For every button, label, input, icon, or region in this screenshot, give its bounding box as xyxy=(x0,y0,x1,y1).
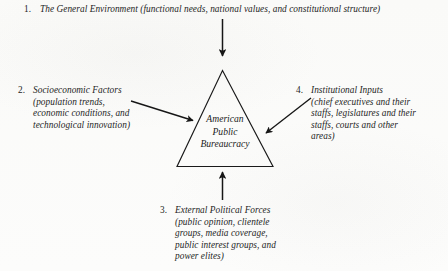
item-3-number: 3. xyxy=(160,205,167,217)
item-4-number: 4. xyxy=(296,85,303,97)
diagram-canvas: American Public Bureaucracy 1. The Gener… xyxy=(0,0,448,271)
item-2-label: Socioeconomic Factors (population trends… xyxy=(33,85,145,131)
center-label-line-3: Bureaucracy xyxy=(183,138,267,151)
item-1-number: 1. xyxy=(24,4,31,16)
item-2-number: 2. xyxy=(18,85,25,97)
item-4-label: Institutional Inputs (chief executives a… xyxy=(311,85,443,143)
center-label-line-1: American xyxy=(183,113,267,126)
item-3-label: External Political Forces (public opinio… xyxy=(175,205,321,263)
center-label-line-2: Public xyxy=(183,126,267,139)
arrow-right-left xyxy=(266,98,311,133)
item-1-label: The General Environment (functional need… xyxy=(40,4,448,16)
center-label: American Public Bureaucracy xyxy=(183,113,267,151)
